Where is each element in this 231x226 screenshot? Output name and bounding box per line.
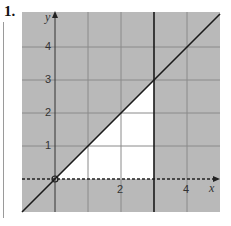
y-axis-label: y (44, 10, 51, 24)
x-tick-2: 2 (117, 183, 123, 195)
y-tick-4: 4 (45, 40, 51, 52)
y-tick-2: 2 (45, 106, 51, 118)
x-axis-label: x (208, 181, 215, 195)
y-tick-3: 3 (45, 73, 51, 85)
y-tick-1: 1 (45, 139, 51, 151)
x-tick-4: 4 (183, 183, 189, 195)
inequality-graph: y x 4 3 2 1 2 4 (0, 0, 231, 226)
